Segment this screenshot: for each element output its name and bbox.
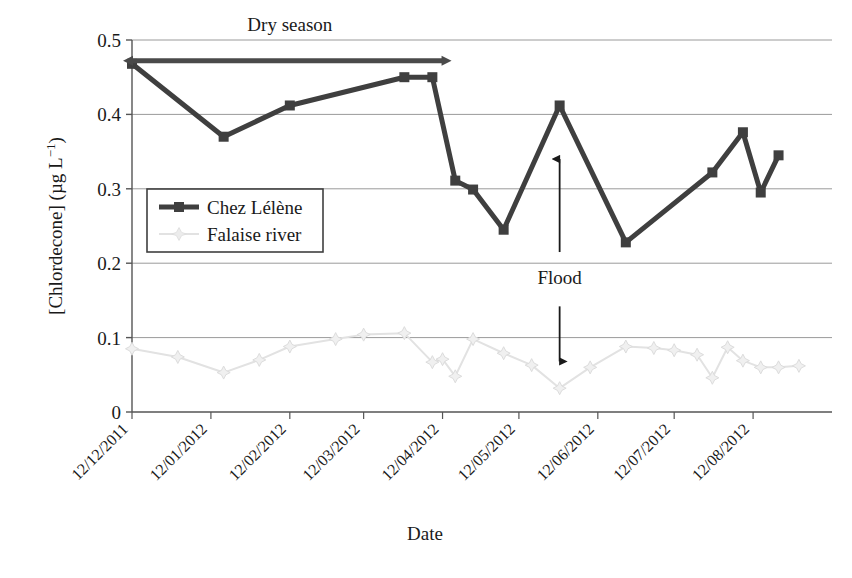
data-point <box>450 176 460 186</box>
x-axis-tick-labels: 12/12/201112/01/201212/02/201212/03/2012… <box>68 420 752 484</box>
y-tick-label-0.4: 0.4 <box>97 104 121 125</box>
y-tick-label-0: 0 <box>112 402 122 423</box>
y-axis-title-main: [Chlordecone] (µg L <box>45 157 67 315</box>
data-point <box>668 344 681 357</box>
x-tick-label-group-2: 12/02/2012 <box>225 420 289 484</box>
data-point <box>792 359 805 372</box>
data-point <box>283 340 296 353</box>
annotation-flood: Flood <box>537 159 582 361</box>
data-point <box>253 353 266 366</box>
x-axis-ticks <box>132 412 753 419</box>
y-axis-ticks: 00.10.20.30.40.5 <box>97 30 132 423</box>
y-tick-label-0.1: 0.1 <box>97 328 121 349</box>
x-tick-label-group-7: 12/07/2012 <box>610 420 674 484</box>
legend-label-falaise-river: Falaise river <box>207 224 302 245</box>
y-axis-title-text: [Chlordecone] (µg L−1) <box>43 137 67 315</box>
legend-label-chez-lelene: Chez Lélène <box>207 197 302 218</box>
data-point <box>285 100 295 110</box>
x-tick-label-6: 12/06/2012 <box>533 420 597 484</box>
data-point <box>357 328 370 341</box>
series-falaise-river <box>126 327 806 395</box>
data-point <box>126 342 139 355</box>
x-tick-label-4: 12/04/2012 <box>378 420 442 484</box>
series-line-series-falaise <box>132 333 799 388</box>
data-point <box>619 340 632 353</box>
y-tick-label-0.5: 0.5 <box>97 30 121 51</box>
data-point <box>756 188 766 198</box>
x-tick-label-0: 12/12/2011 <box>68 420 131 483</box>
chart-figure: 00.10.20.30.40.5 12/12/201112/01/201212/… <box>0 0 852 578</box>
data-point <box>499 225 509 235</box>
x-tick-label-group-5: 12/05/2012 <box>454 420 518 484</box>
data-point <box>555 100 565 110</box>
x-tick-label-8: 12/08/2012 <box>689 420 753 484</box>
data-point <box>219 132 229 142</box>
chart-legend: Chez Lélène Falaise river <box>147 189 323 252</box>
x-tick-label-group-1: 12/01/2012 <box>146 420 210 484</box>
data-point <box>399 72 409 82</box>
x-tick-label-group-6: 12/06/2012 <box>533 420 597 484</box>
data-point <box>691 348 704 361</box>
data-point <box>468 185 478 195</box>
data-point <box>427 72 437 82</box>
dry-season-label: Dry season <box>247 14 332 35</box>
data-point <box>621 237 631 247</box>
y-axis-title-exponent: −1 <box>43 143 58 157</box>
data-point <box>707 167 717 177</box>
chlordecone-time-series-chart: 00.10.20.30.40.5 12/12/201112/01/201212/… <box>0 0 852 578</box>
x-tick-label-3: 12/03/2012 <box>299 420 363 484</box>
x-tick-label-group-3: 12/03/2012 <box>299 420 363 484</box>
x-tick-label-5: 12/05/2012 <box>454 420 518 484</box>
y-axis-title: [Chlordecone] (µg L−1) <box>43 137 67 315</box>
annotation-dry-season: Dry season <box>132 14 443 61</box>
data-point <box>171 350 184 363</box>
data-point <box>706 371 719 384</box>
y-tick-label-0.2: 0.2 <box>97 253 121 274</box>
data-point <box>774 150 784 160</box>
x-tick-label-7: 12/07/2012 <box>610 420 674 484</box>
data-point <box>738 127 748 137</box>
data-point <box>497 347 510 360</box>
x-tick-label-group-0: 12/12/2011 <box>68 420 131 483</box>
x-tick-label-2: 12/02/2012 <box>225 420 289 484</box>
data-point <box>329 333 342 346</box>
x-axis-title: Date <box>407 523 443 544</box>
data-point <box>217 366 230 379</box>
data-point <box>772 361 785 374</box>
data-point <box>647 342 660 355</box>
data-point <box>584 361 597 374</box>
y-tick-label-0.3: 0.3 <box>97 179 121 200</box>
legend-marker-chez-lelene <box>174 202 184 212</box>
data-point <box>467 333 480 346</box>
data-point <box>754 361 767 374</box>
x-tick-label-group-8: 12/08/2012 <box>689 420 753 484</box>
y-axis-title-tail: ) <box>45 137 67 143</box>
flood-label: Flood <box>537 267 582 288</box>
x-tick-label-1: 12/01/2012 <box>146 420 210 484</box>
x-tick-label-group-4: 12/04/2012 <box>378 420 442 484</box>
